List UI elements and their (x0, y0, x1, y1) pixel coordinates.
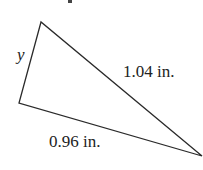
side-label-bottom: 0.96 in. (49, 132, 100, 152)
side-label-hypotenuse: 1.04 in. (123, 62, 174, 82)
side-label-y: y (17, 45, 25, 65)
triangle-figure (0, 0, 203, 170)
triangle (19, 22, 202, 156)
